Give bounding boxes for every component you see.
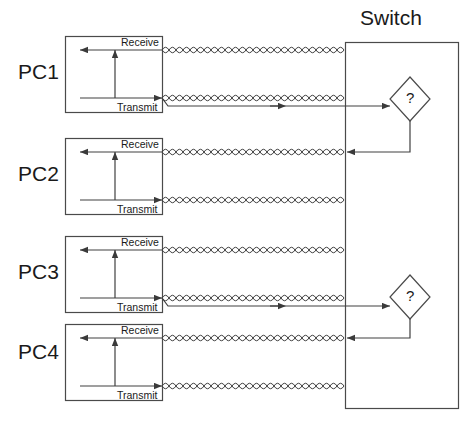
twisted-pair-cable-receive [162, 335, 344, 341]
decision-question-mark: ? [406, 287, 414, 304]
twisted-pair-cable-transmit [162, 295, 344, 301]
switch-label: Switch [360, 6, 422, 30]
decision-question-mark: ? [406, 89, 414, 106]
pc-label-pc1: PC1 [18, 60, 59, 84]
switch-return-path [347, 121, 410, 152]
transmit-label: Transmit [117, 389, 157, 401]
receive-label: Receive [121, 36, 159, 48]
pc-label-pc2: PC2 [18, 162, 59, 186]
network-diagram: SwitchPC1ReceiveTransmitPC2ReceiveTransm… [0, 0, 473, 422]
twisted-pair-cable-receive [162, 47, 344, 53]
pc-label-pc3: PC3 [18, 260, 59, 284]
twisted-pair-cable-transmit [162, 383, 344, 389]
diagram-canvas [0, 0, 473, 422]
switch-box [346, 43, 459, 409]
twisted-pair-cable-receive [162, 247, 344, 253]
transmit-label: Transmit [117, 101, 157, 113]
switch-return-path [347, 319, 410, 338]
receive-label: Receive [121, 138, 159, 150]
receive-label: Receive [121, 236, 159, 248]
twisted-pair-cable-transmit [162, 95, 344, 101]
transmit-label: Transmit [117, 203, 157, 215]
twisted-pair-cable-transmit [162, 197, 344, 203]
receive-label: Receive [121, 324, 159, 336]
pc-label-pc4: PC4 [18, 340, 59, 364]
transmit-label: Transmit [117, 301, 157, 313]
twisted-pair-cable-receive [162, 149, 344, 155]
